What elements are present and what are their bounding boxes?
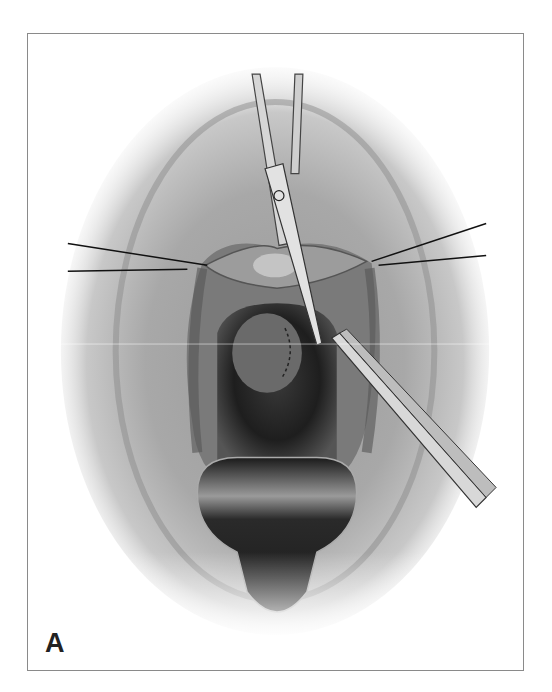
figure-frame: [27, 33, 524, 671]
surgical-illustration: [28, 34, 523, 670]
panel-label: A: [45, 628, 65, 659]
